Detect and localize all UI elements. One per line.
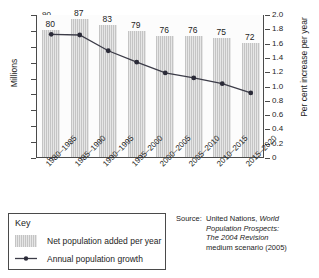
y-axis-right-tick-mark	[265, 72, 270, 73]
line-marker	[134, 60, 139, 65]
bar-value-label: 79	[124, 21, 148, 30]
bar-value-label: 72	[238, 33, 262, 42]
y-axis-right-tick-label: 1.6	[272, 40, 292, 48]
legend-item-label: Annual population growth	[47, 254, 143, 264]
bar-value-label: 76	[152, 26, 176, 35]
y-axis-right-tick-mark	[265, 87, 270, 88]
bar-value-label: 83	[95, 15, 119, 24]
legend-key-box: Key Net population added per year Annual…	[8, 213, 166, 270]
y-axis-right-tick-mark	[265, 44, 270, 45]
source-line: The 2004 Revision	[206, 233, 269, 242]
line-marker	[163, 71, 168, 76]
line-marker	[191, 76, 196, 81]
y-axis-right-tick-label: 1.4	[272, 54, 292, 62]
line-marker	[49, 32, 54, 37]
y-axis-right-title: Per cent increase per year	[299, 7, 309, 127]
y-axis-right-tick-label: 2.0	[272, 11, 292, 19]
line-marker	[248, 91, 253, 96]
y-axis-right-tick-label: 0.4	[272, 125, 292, 133]
source-line: Population Prospects:	[206, 224, 279, 233]
y-axis-right-tick-label: 0	[272, 154, 292, 162]
y-axis-right-tick-label: 1.8	[272, 25, 292, 33]
y-axis-right-tick-label: 0.6	[272, 111, 292, 119]
y-axis-right-tick-mark	[265, 15, 270, 16]
source-body: United Nations, WorldPopulation Prospect…	[206, 214, 316, 252]
source-line: medium scenario (2005)	[206, 243, 287, 252]
y-axis-left-tick-mark	[31, 158, 36, 159]
y-axis-right-tick-mark	[265, 129, 270, 130]
line-marker	[220, 81, 225, 86]
y-axis-right-tick-label: 1.2	[272, 68, 292, 76]
legend-item-label: Net population added per year	[47, 236, 161, 246]
y-axis-right-tick-label: 1.0	[272, 83, 292, 91]
line-marker	[77, 33, 82, 38]
legend-title: Key	[15, 218, 31, 228]
line-swatch-icon	[15, 257, 37, 260]
bar-value-label: 75	[209, 28, 233, 37]
source-label: Source:	[176, 214, 202, 224]
y-axis-left-title: Millions	[9, 43, 19, 103]
y-axis-right-tick-mark	[265, 29, 270, 30]
line-marker	[106, 48, 111, 53]
y-axis-right-tick-mark	[265, 158, 270, 159]
y-axis-right-tick-mark	[265, 58, 270, 59]
bar-value-label: 80	[38, 20, 62, 29]
bar-value-label: 87	[67, 9, 91, 18]
bar-swatch-icon	[15, 235, 37, 247]
source-line: United Nations,	[206, 214, 259, 223]
population-growth-figure: Millions Per cent increase per year 0102…	[0, 0, 319, 278]
y-axis-right-tick-mark	[265, 101, 270, 102]
y-axis-right-tick-label: 0.8	[272, 97, 292, 105]
bar-value-label: 76	[181, 26, 205, 35]
source-line: World	[259, 214, 279, 223]
y-axis-right-tick-mark	[265, 115, 270, 116]
